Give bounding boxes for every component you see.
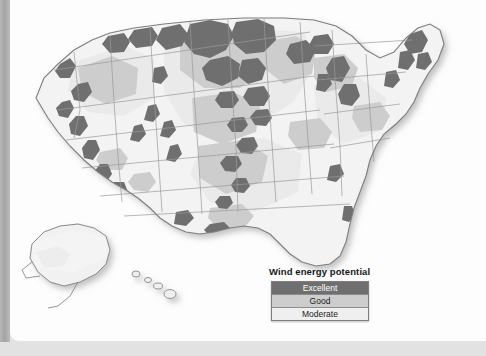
legend-item-moderate: Moderate — [272, 308, 368, 320]
page-bottom-band — [0, 342, 486, 356]
legend-item-good: Good — [272, 295, 368, 308]
legend-swatch-list: Excellent Good Moderate — [271, 281, 369, 321]
map-figure — [14, 6, 476, 326]
us-wind-potential-map — [14, 6, 476, 326]
map-legend: Wind energy potential Excellent Good Mod… — [268, 266, 372, 321]
legend-title: Wind energy potential — [269, 266, 372, 277]
legend-item-excellent: Excellent — [272, 282, 368, 295]
page-gutter-strip — [0, 0, 10, 344]
figure-stage: Wind energy potential Excellent Good Mod… — [0, 0, 486, 356]
